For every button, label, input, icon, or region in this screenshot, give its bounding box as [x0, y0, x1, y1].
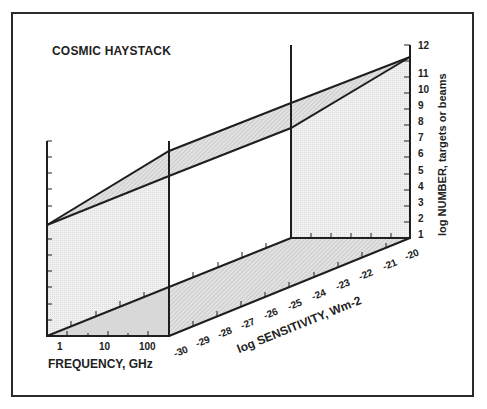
number-tick: 9	[418, 100, 424, 111]
number-tick: 10	[418, 84, 429, 95]
number-tick: 2	[418, 213, 424, 224]
number-tick: 12	[418, 40, 429, 51]
number-tick: 11	[418, 68, 429, 79]
freq-tick-100: 100	[139, 341, 156, 352]
number-tick: 5	[418, 165, 424, 176]
number-tick: 6	[418, 148, 424, 159]
number-tick: 3	[418, 197, 424, 208]
freq-tick-1: 1	[57, 341, 63, 352]
number-tick: 4	[418, 181, 424, 192]
number-axis-label: log NUMBER, targets or beams	[436, 73, 448, 236]
diagram-title: COSMIC HAYSTACK	[52, 44, 171, 58]
freq-tick-10: 10	[99, 341, 110, 352]
frequency-axis-label: FREQUENCY, GHz	[48, 357, 153, 371]
number-tick: 1	[418, 229, 424, 240]
number-tick: 8	[418, 116, 424, 127]
number-tick: 7	[418, 132, 424, 143]
